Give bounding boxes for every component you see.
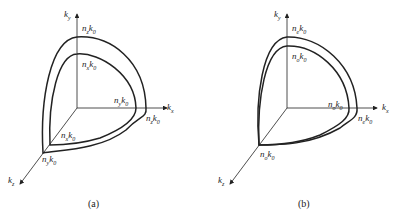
panel-a-axis-ky-label: ky — [64, 10, 71, 21]
panel-a-label-x-outer: nzk0 — [146, 114, 160, 125]
panel-a-label-x-inner: nyk0 — [114, 96, 128, 107]
panel-b-axis-kx-label: kx — [382, 103, 389, 114]
panel-b-axis-ky-label: ky — [274, 10, 281, 21]
panel-a-label-y-inner: nxk0 — [82, 60, 96, 71]
panel-a-label-z-inner: nxk0 — [61, 131, 75, 142]
panel-b-caption: (b) — [298, 198, 310, 209]
panel-b-label-y-outer: nek0 — [292, 24, 306, 35]
panel-b-label-x-inner: nok0 — [328, 100, 343, 111]
panel-b-axes — [230, 14, 377, 184]
panel-b-label-z: nok0 — [260, 150, 275, 161]
panel-a-surfaces — [42, 37, 146, 153]
panel-a-caption: (a) — [88, 198, 99, 209]
panel-b-label-y-inner: nok0 — [292, 52, 307, 63]
panel-b-surfaces — [258, 37, 357, 145]
panel-a-axis-kx-label: kx — [167, 103, 174, 114]
panel-b-label-x-outer: nek0 — [358, 114, 372, 125]
panel-a-label-y-outer: nzk0 — [82, 24, 96, 35]
panel-a-label-z-outer: nyk0 — [42, 155, 56, 166]
panel-a-axis-kz-label: kz — [8, 176, 14, 187]
panel-b-axis-kz-label: kz — [218, 176, 224, 187]
